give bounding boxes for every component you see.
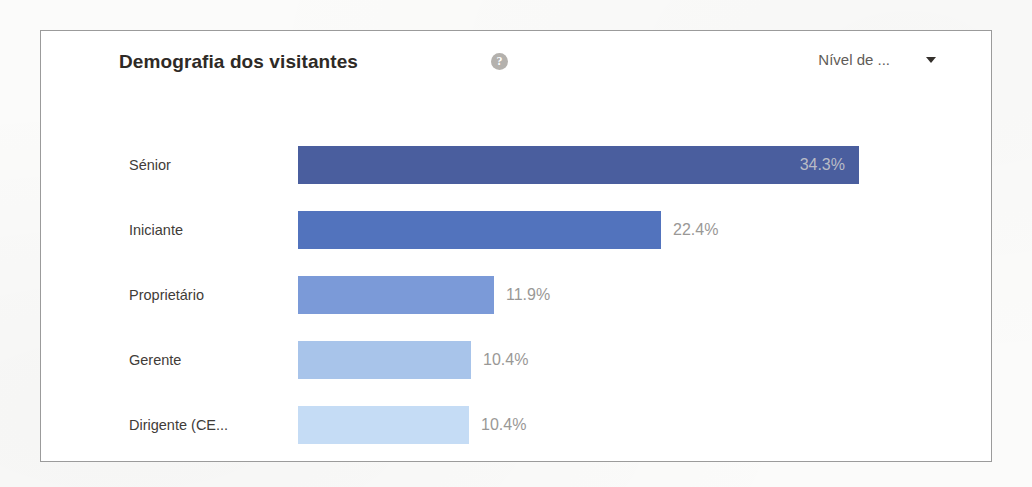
page-title: Demografia dos visitantes [119,51,358,73]
demographics-card: Demografia dos visitantes ? Nível de ...… [40,30,992,462]
card-header: Demografia dos visitantes ? Nível de ... [41,31,991,97]
help-circle-icon[interactable]: ? [491,53,508,70]
bar-category-label: Dirigente (CE... [129,406,284,444]
chart-row: Proprietário11.9% [41,276,991,314]
bar-segment[interactable] [298,341,471,379]
bar-segment[interactable] [298,406,469,444]
bar-segment[interactable] [298,211,661,249]
bar-segment[interactable] [298,276,494,314]
bar-value-label: 22.4% [673,211,718,249]
bar-category-label: Sénior [129,146,284,184]
bar-value-label: 10.4% [481,406,526,444]
bar-value-label: 34.3% [800,146,845,184]
demographics-bar-chart: Sénior34.3%Iniciante22.4%Proprietário11.… [41,97,991,461]
bar-category-label: Proprietário [129,276,284,314]
level-dropdown-label: Nível de ... [818,51,890,68]
bar-value-label: 10.4% [483,341,528,379]
screenshot-root: Demografia dos visitantes ? Nível de ...… [0,0,1032,487]
bar-value-label: 11.9% [506,276,550,314]
level-dropdown[interactable]: Nível de ... [818,51,936,68]
bar-segment[interactable]: 34.3% [298,146,859,184]
bar-category-label: Gerente [129,341,284,379]
chart-row: Gerente10.4% [41,341,991,379]
chart-row: Iniciante22.4% [41,211,991,249]
chevron-down-icon [926,57,936,63]
bar-category-label: Iniciante [129,211,284,249]
chart-row: Dirigente (CE...10.4% [41,406,991,444]
chart-row: Sénior34.3% [41,146,991,184]
